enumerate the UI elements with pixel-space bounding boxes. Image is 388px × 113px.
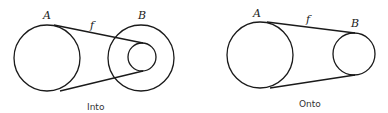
onto-caption: Onto	[299, 99, 321, 109]
mapping-line-bottom	[60, 71, 143, 91]
function-mapping-figure: A f B Into A f B Onto	[0, 0, 388, 113]
set-b-label: B	[137, 9, 146, 22]
into-diagram: A f B Into	[14, 9, 174, 112]
into-caption: Into	[87, 102, 105, 112]
mapping-line-top	[267, 22, 355, 33]
set-a-label: A	[42, 9, 51, 22]
set-a-circle	[227, 22, 293, 88]
mapping-line-bottom	[270, 75, 355, 88]
onto-diagram: A f B Onto	[227, 7, 375, 109]
function-label: f	[305, 13, 312, 26]
function-label: f	[89, 19, 96, 32]
set-a-label: A	[252, 7, 261, 20]
set-a-circle	[14, 25, 80, 91]
image-subset-circle	[128, 43, 156, 71]
set-b-label: B	[350, 17, 359, 30]
set-b-circle	[333, 33, 375, 75]
set-b-circle	[108, 25, 174, 91]
